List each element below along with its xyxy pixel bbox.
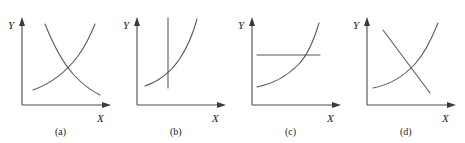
y-axis-arrow-icon [249, 17, 255, 26]
x-axis-label: X [326, 112, 335, 124]
x-axis-arrow-icon [217, 102, 226, 108]
x-axis-label: X [441, 112, 450, 124]
y-axis-label: Y [123, 19, 131, 31]
increasing-convex-curve [45, 24, 100, 95]
x-axis-label: X [96, 112, 105, 124]
axes-d [364, 17, 456, 108]
panel-d: Y X (d) [345, 0, 460, 143]
axes-b [134, 17, 226, 108]
panel-c: Y X (c) [230, 0, 345, 143]
panel-caption: (d) [400, 126, 412, 138]
decreasing-convex-curve [33, 24, 95, 90]
panel-a: Y X (a) [0, 0, 115, 143]
panel-caption: (a) [55, 126, 66, 138]
y-axis-label: Y [238, 19, 246, 31]
y-axis-label: Y [8, 19, 16, 31]
panel-caption: (c) [285, 126, 296, 138]
x-axis-arrow-icon [332, 102, 341, 108]
axes-a [19, 17, 111, 108]
increasing-convex-curve [373, 23, 438, 88]
axes-c [249, 17, 341, 108]
x-axis-label: X [211, 112, 220, 124]
x-axis-arrow-icon [447, 102, 456, 108]
panel-caption: (b) [170, 126, 182, 138]
y-axis-arrow-icon [134, 17, 140, 26]
decreasing-straight-line [383, 30, 430, 93]
panel-b: Y X (b) [115, 0, 230, 143]
x-axis-arrow-icon [102, 102, 111, 108]
increasing-convex-curve [145, 19, 197, 86]
figure-container: Y X (a) Y X (b) [0, 0, 465, 143]
y-axis-arrow-icon [19, 17, 25, 26]
y-axis-label: Y [353, 19, 361, 31]
y-axis-arrow-icon [364, 17, 370, 26]
